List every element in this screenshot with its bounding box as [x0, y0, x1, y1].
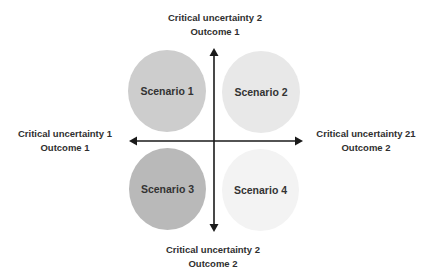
arrow-right-icon	[295, 137, 303, 146]
top-axis-label: Critical uncertainty 2 Outcome 1	[140, 11, 290, 39]
right-axis-label-line1: Critical uncertainty 21	[306, 127, 426, 141]
left-axis-label-line1: Critical uncertainty 1	[10, 127, 120, 141]
bottom-axis-label: Critical uncertainty 2 Outcome 2	[138, 243, 288, 271]
left-axis-label-line2: Outcome 1	[10, 141, 120, 155]
top-axis-label-line2: Outcome 1	[140, 25, 290, 39]
bottom-axis-label-line2: Outcome 2	[138, 257, 288, 271]
arrow-down-icon	[210, 224, 219, 232]
top-axis-label-line1: Critical uncertainty 2	[140, 11, 290, 25]
right-axis-label-line2: Outcome 2	[306, 141, 426, 155]
right-axis-label: Critical uncertainty 21 Outcome 2	[306, 127, 426, 155]
arrow-left-icon	[129, 137, 137, 146]
bottom-axis-label-line1: Critical uncertainty 2	[138, 243, 288, 257]
arrow-up-icon	[210, 48, 219, 56]
left-axis-label: Critical uncertainty 1 Outcome 1	[10, 127, 120, 155]
